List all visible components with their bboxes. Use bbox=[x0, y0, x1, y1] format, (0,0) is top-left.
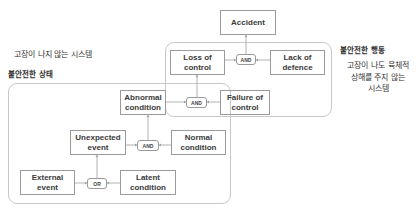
node-lack-of-defence: Lack of defence bbox=[270, 50, 325, 75]
node-unexpected-event: Unexpected event bbox=[70, 130, 126, 155]
node-accident: Accident bbox=[220, 10, 276, 35]
safe-system-right-label: 고장이 나도 육체적 상해를 주지 않는 시스템 bbox=[336, 60, 416, 95]
safe-system-left-label: 고장이 나지 않는 시스템 bbox=[14, 48, 92, 59]
node-abnormal-condition: Abnormal condition bbox=[120, 90, 166, 115]
node-external-event: External event bbox=[20, 170, 75, 195]
node-latent-condition: Latent condition bbox=[120, 170, 176, 195]
node-normal-condition: Normal condition bbox=[171, 130, 226, 155]
node-failure-of-control: Failure of control bbox=[220, 90, 270, 115]
unsafe-action-label: 불안전한 행동 bbox=[340, 44, 385, 55]
gate-and-top: AND bbox=[236, 54, 256, 65]
node-loss-of-control: Loss of control bbox=[170, 50, 225, 75]
gate-and-lower: AND bbox=[137, 140, 159, 151]
gate-or-bottom: OR bbox=[87, 178, 107, 189]
unsafe-state-label: 불안전한 상태 bbox=[8, 68, 53, 79]
gate-and-middle: AND bbox=[186, 97, 207, 108]
